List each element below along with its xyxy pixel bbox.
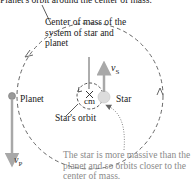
orbit-arrow-icon (157, 88, 163, 95)
orbit-arrow-icon (78, 87, 82, 92)
mass-note: The star is more massive than the planet… (63, 150, 191, 182)
note-pointer-line (108, 106, 124, 150)
center-of-mass-label: Center of mass of the system of star and… (45, 17, 126, 49)
planet-label: Planet (20, 94, 44, 105)
cm-label-line-2: system of star and (45, 28, 126, 39)
velocity-subscript: S (115, 68, 119, 76)
cm-label-line-3: planet (45, 38, 126, 49)
planet-icon (9, 93, 16, 100)
velocity-subscript: P (18, 160, 22, 168)
orbit-arrow-icon (25, 50, 33, 57)
star-label: Star (116, 94, 131, 105)
star-icon (98, 91, 110, 103)
cm-label: cm (84, 96, 95, 107)
star-orbit-label: Star's orbit (55, 113, 96, 124)
cm-label-line-1: Center of mass of the (45, 17, 126, 28)
center-of-mass-diagram: Planet's orbit around the center of mass… (0, 0, 191, 184)
top-caption: Planet's orbit around the center of mass… (0, 0, 152, 6)
star-velocity-label: vS (111, 63, 119, 78)
planet-velocity-label: vP (14, 155, 22, 170)
